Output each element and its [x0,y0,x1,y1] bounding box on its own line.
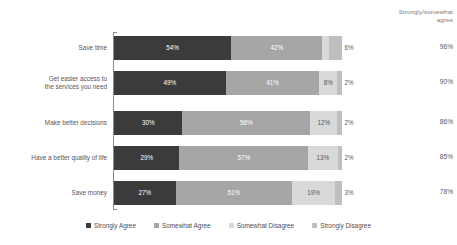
segment-somewhat-agree[interactable]: 56% [182,111,310,135]
segment-value-label: 54% [166,45,179,51]
segment-strongly-disagree[interactable]: 6% [329,36,342,60]
row-label: Have a better quality of life [2,154,107,162]
summary-value: 96% [369,43,453,50]
segment-strongly-agree[interactable]: 27% [114,181,176,205]
segment-somewhat-disagree[interactable]: 13% [308,146,337,170]
segment-strongly-agree[interactable]: 49% [114,71,226,95]
summary-column-header-line1: Strongly/somewhat [369,8,453,16]
table-row: Save time 54% 42% 3% 6% 96% [0,36,457,60]
segment-value-label: 27% [138,190,151,196]
legend-label: Somewhat Disagree [237,222,295,229]
row-label: Save money [2,189,107,197]
table-row: Get easier access to the services you ne… [0,71,457,95]
axis-cap-top [113,32,117,33]
segment-value-label: 51% [227,190,240,196]
segment-somewhat-disagree[interactable]: 8% [319,71,337,95]
bar-save-time: 54% 42% 3% 6% [114,36,342,60]
row-label: Get easier access to the services you ne… [2,75,107,91]
segment-somewhat-agree[interactable]: 51% [176,181,292,205]
legend-item-somewhat-disagree[interactable]: Somewhat Disagree [229,222,295,229]
segment-value-label: 57% [238,155,251,161]
segment-somewhat-agree[interactable]: 57% [179,146,308,170]
legend-swatch-icon [86,223,91,228]
summary-column-header-line2: agree [369,16,453,24]
segment-strongly-disagree[interactable]: 3% [335,181,342,205]
row-label-line1: Save money [2,189,107,197]
stacked-bar-chart: Strongly/somewhat agree Save time 54% 42… [0,0,457,245]
segment-value-label: 2% [344,120,353,126]
segment-value-label: 3% [344,190,353,196]
row-label-line1: Get easier access to [2,75,107,83]
summary-value: 86% [369,118,453,125]
segment-value-label: 13% [317,155,330,161]
segment-value-label: 29% [140,155,153,161]
segment-strongly-agree[interactable]: 29% [114,146,179,170]
chart-legend: Strongly Agree Somewhat Agree Somewhat D… [0,222,457,229]
segment-strongly-disagree[interactable]: 2% [338,146,343,170]
row-label: Save time [2,44,107,52]
segment-value-label: 2% [344,80,353,86]
bar-get-easier-access: 49% 41% 8% 2% [114,71,342,95]
segment-somewhat-disagree[interactable]: 19% [292,181,335,205]
bar-make-better-decisions: 30% 56% 12% 2% [114,111,342,135]
segment-strongly-disagree[interactable]: 2% [337,71,342,95]
table-row: Save money 27% 51% 19% 3% 78% [0,181,457,205]
segment-value-label: 49% [164,80,177,86]
summary-column-header: Strongly/somewhat agree [369,8,453,25]
bar-better-quality-of-life: 29% 57% 13% 2% [114,146,342,170]
row-label-line1: Make better decisions [2,119,107,127]
row-label-line1: Have a better quality of life [2,154,107,162]
plot-area: Save time 54% 42% 3% 6% 96% Ge [0,30,457,212]
segment-value-label: 30% [142,120,155,126]
segment-value-label: 41% [266,80,279,86]
row-label-line1: Save time [2,44,107,52]
summary-value: 78% [369,188,453,195]
bar-save-money: 27% 51% 19% 3% [114,181,342,205]
segment-somewhat-agree[interactable]: 42% [231,36,322,60]
legend-item-strongly-disagree[interactable]: Strongly Disagree [312,222,371,229]
segment-somewhat-agree[interactable]: 41% [226,71,319,95]
segment-value-label: 56% [240,120,253,126]
row-label-line2: the services you need [2,83,107,91]
legend-label: Strongly Disagree [320,222,371,229]
segment-value-label: 8% [324,80,333,86]
legend-label: Somewhat Agree [162,222,211,229]
segment-value-label: 42% [271,45,284,51]
segment-somewhat-disagree[interactable]: 12% [310,111,337,135]
legend-swatch-icon [229,223,234,228]
axis-cap-bottom [113,209,117,210]
row-label: Make better decisions [2,119,107,127]
segment-value-label: 2% [345,155,354,161]
segment-value-label: 6% [344,45,353,51]
legend-item-somewhat-agree[interactable]: Somewhat Agree [154,222,211,229]
segment-strongly-agree[interactable]: 54% [114,36,231,60]
table-row: Make better decisions 30% 56% 12% 2% 86% [0,111,457,135]
segment-value-label: 12% [317,120,330,126]
legend-swatch-icon [312,223,317,228]
segment-strongly-agree[interactable]: 30% [114,111,182,135]
summary-value: 90% [369,78,453,85]
legend-label: Strongly Agree [94,222,136,229]
segment-value-label: 19% [307,190,320,196]
table-row: Have a better quality of life 29% 57% 13… [0,146,457,170]
legend-item-strongly-agree[interactable]: Strongly Agree [86,222,136,229]
summary-value: 85% [369,153,453,160]
segment-strongly-disagree[interactable]: 2% [337,111,342,135]
legend-swatch-icon [154,223,159,228]
